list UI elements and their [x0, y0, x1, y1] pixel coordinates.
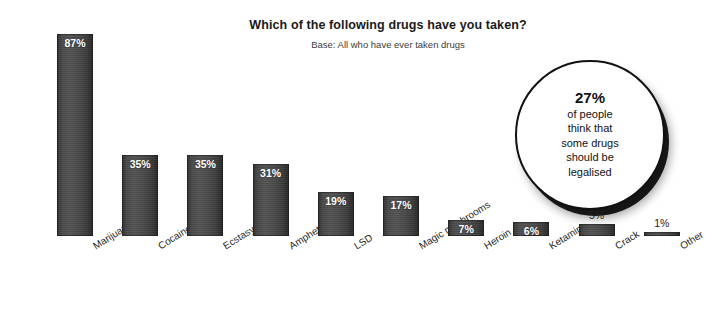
bar-value-magic-mushrooms: 17% [383, 199, 419, 211]
callout-circle: 27% of people think that some drugs shou… [515, 60, 665, 210]
bar-value-marijuana: 87% [57, 37, 93, 49]
callout-line-3: some drugs [561, 136, 618, 151]
callout-line-1: of people [561, 107, 618, 122]
callout-text: 27% of people think that some drugs shou… [549, 91, 630, 179]
bar-value-heroin: 7% [448, 223, 484, 235]
callout-line-4: should be [561, 150, 618, 165]
bar-value-ketamine: 6% [513, 225, 549, 237]
callout-line-2: think that [561, 121, 618, 136]
callout-percent: 27% [561, 91, 618, 106]
bar-value-lsd: 19% [318, 195, 354, 207]
bar-value-cocaine: 35% [122, 158, 158, 170]
bar-crack[interactable] [579, 224, 615, 236]
category-label-heroin: Heroin [482, 226, 513, 251]
bar-other[interactable] [644, 232, 680, 236]
category-label-crack: Crack [613, 228, 641, 251]
category-label-lsd: LSD [352, 232, 374, 252]
bar-marijuana[interactable] [57, 34, 93, 236]
category-label-ecstasy: Ecstasy [221, 223, 257, 251]
category-label-other: Other [678, 229, 705, 252]
chart-container: Which of the following drugs have you ta… [0, 0, 706, 316]
callout-line-5: legalised [561, 165, 618, 180]
bar-value-amphetamines: 31% [253, 167, 289, 179]
bar-value-ecstasy: 35% [187, 158, 223, 170]
bar-value-other: 1% [644, 217, 680, 229]
bar-value-crack: 5% [579, 209, 615, 221]
